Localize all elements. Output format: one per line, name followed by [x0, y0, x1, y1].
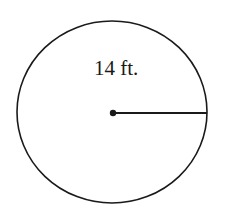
- circle-diagram: [0, 0, 225, 210]
- center-point: [110, 110, 116, 116]
- radius-label: 14 ft.: [94, 56, 138, 81]
